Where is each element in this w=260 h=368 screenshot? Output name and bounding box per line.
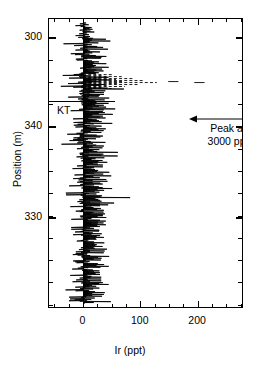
kt-boundary-label: KT xyxy=(57,104,70,116)
y-tick-major xyxy=(236,37,243,38)
x-tick-minor xyxy=(97,304,98,307)
peak-annotation-line2: 3000 ppt xyxy=(189,135,242,148)
x-tick-label: 100 xyxy=(120,315,160,326)
x-tick-label: 0 xyxy=(62,315,102,326)
x-tick-major xyxy=(140,19,141,25)
y-tick-major xyxy=(49,37,56,38)
x-tick-minor xyxy=(54,304,55,307)
y-tick-minor xyxy=(238,104,242,105)
x-tick-minor xyxy=(169,19,170,22)
y-tick-major xyxy=(236,126,243,127)
x-tick-major xyxy=(140,301,141,307)
zero-baseline xyxy=(83,19,84,307)
y-tick-minor xyxy=(49,238,53,239)
y-tick-minor xyxy=(238,149,242,150)
data-trace-ir xyxy=(49,19,242,307)
figure-ir-depth-profile: KT Peak at 3000 ppt 0100200300340330 Ir … xyxy=(0,0,260,368)
y-tick-minor xyxy=(49,104,53,105)
x-tick-minor xyxy=(112,304,113,307)
y-tick-minor xyxy=(49,305,53,306)
y-tick-minor xyxy=(49,216,53,217)
peak-annotation: Peak at 3000 ppt xyxy=(189,122,242,147)
x-tick-label: 200 xyxy=(177,315,217,326)
x-tick-minor xyxy=(155,19,156,22)
y-tick-minor xyxy=(49,282,53,283)
x-tick-major xyxy=(198,19,199,25)
y-tick-minor xyxy=(49,60,53,61)
x-tick-major xyxy=(198,301,199,307)
y-tick-minor xyxy=(49,193,53,194)
y-axis-title-wrapper: Position (m) xyxy=(7,99,25,219)
y-tick-major xyxy=(49,126,56,127)
x-tick-minor xyxy=(112,19,113,22)
x-tick-minor xyxy=(226,304,227,307)
y-tick-minor xyxy=(238,282,242,283)
y-axis-title: Position (m) xyxy=(11,131,23,187)
x-tick-minor xyxy=(183,19,184,22)
x-tick-minor xyxy=(69,304,70,307)
y-tick-minor xyxy=(238,171,242,172)
y-tick-minor xyxy=(49,149,53,150)
x-tick-minor xyxy=(54,19,55,22)
x-tick-minor xyxy=(126,304,127,307)
x-tick-major xyxy=(83,19,84,25)
x-tick-minor xyxy=(126,19,127,22)
plot-area: KT Peak at 3000 ppt xyxy=(49,19,242,307)
y-tick-minor xyxy=(238,193,242,194)
x-tick-minor xyxy=(69,19,70,22)
y-tick-major xyxy=(236,217,243,218)
x-tick-minor xyxy=(97,19,98,22)
y-tick-minor xyxy=(238,305,242,306)
y-tick-minor xyxy=(49,171,53,172)
peak-annotation-line1: Peak at xyxy=(189,122,242,135)
x-tick-minor xyxy=(241,19,242,22)
x-tick-minor xyxy=(212,19,213,22)
kt-boundary-line xyxy=(49,101,115,102)
y-tick-major xyxy=(49,217,56,218)
y-tick-minor xyxy=(238,216,242,217)
plot-frame: KT Peak at 3000 ppt xyxy=(48,18,243,308)
x-tick-minor xyxy=(212,304,213,307)
y-tick-minor xyxy=(238,60,242,61)
x-axis-title: Ir (ppt) xyxy=(0,344,260,356)
y-tick-minor xyxy=(238,82,242,83)
x-tick-minor xyxy=(183,304,184,307)
x-tick-minor xyxy=(226,19,227,22)
y-tick-minor xyxy=(238,238,242,239)
y-tick-minor xyxy=(49,260,53,261)
y-tick-minor xyxy=(49,82,53,83)
x-tick-minor xyxy=(155,304,156,307)
x-tick-minor xyxy=(169,304,170,307)
y-tick-label: 300 xyxy=(12,31,42,42)
x-tick-major xyxy=(83,301,84,307)
y-tick-minor xyxy=(238,260,242,261)
